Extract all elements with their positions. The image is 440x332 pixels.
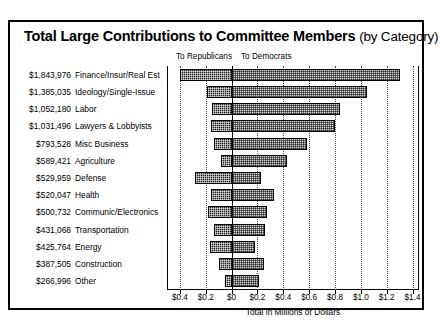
category-row-label: $266,996Other [24, 275, 167, 287]
bar-segment-democrats [232, 69, 400, 81]
contribution-total: $793,528 [36, 138, 71, 150]
chart-title-main: Total Large Contributions to Committee M… [24, 28, 355, 44]
contribution-total: $1,052,180 [29, 103, 71, 115]
value-axis-tick-label: $0.2 [198, 293, 214, 302]
category-row-label: $520,047Health [24, 189, 167, 201]
contribution-total: $266,996 [36, 275, 71, 287]
contribution-total: $520,047 [36, 189, 71, 201]
contribution-total: $529,959 [36, 172, 71, 184]
category-row-label: $500,732Communic/Electronics [24, 206, 167, 218]
bar-segment-republicans [211, 189, 232, 201]
bar-segment-republicans [221, 155, 231, 167]
chart-screenshot: Total Large Contributions to Committee M… [0, 0, 440, 332]
bar-row [167, 206, 419, 218]
category-row-label: $589,421Agriculture [24, 155, 167, 167]
contribution-total: $500,732 [36, 206, 71, 218]
value-axis-tick-label: $1.4 [405, 293, 421, 302]
value-axis-tick-label: $1.2 [379, 293, 395, 302]
bar-segment-republicans [211, 120, 232, 132]
bar-segment-democrats [232, 241, 255, 253]
value-axis-tick-label: $0.8 [327, 293, 343, 302]
bar-segment-republicans [219, 258, 232, 270]
contribution-total: $1,031,496 [29, 120, 71, 132]
bar-segment-republicans [180, 69, 232, 81]
category-row-label: $529,959Defense [24, 172, 167, 184]
category-name: Agriculture [75, 155, 115, 167]
bar-segment-republicans [214, 224, 232, 236]
legend-label-democrats: To Democrats [241, 52, 292, 61]
bar-segment-republicans [207, 86, 232, 98]
bar-row [167, 155, 419, 167]
bar-row [167, 172, 419, 184]
bar-segment-democrats [232, 138, 307, 150]
bar-segment-republicans [210, 241, 232, 253]
bar-segment-republicans [195, 172, 231, 184]
bar-segment-democrats [232, 172, 262, 184]
category-name: Lawyers & Lobbyists [75, 120, 152, 132]
contribution-total: $431,068 [36, 224, 71, 236]
category-name: Other [75, 275, 96, 287]
bar-segment-democrats [232, 189, 275, 201]
bar-row [167, 69, 419, 81]
chart-title: Total Large Contributions to Committee M… [24, 28, 438, 44]
category-row-label: $1,385,035Ideology/Single-Issue [24, 86, 167, 98]
category-row-label: $431,068Transportation [24, 224, 167, 236]
chart-title-suffix: (by Category) [359, 29, 438, 44]
category-name: Construction [75, 258, 122, 270]
bar-row [167, 224, 419, 236]
value-axis-tick-label: $0.6 [301, 293, 317, 302]
category-name: Transportation [75, 224, 129, 236]
category-row-label: $1,052,180Labor [24, 103, 167, 115]
contribution-total: $589,421 [36, 155, 71, 167]
bar-segment-republicans [208, 206, 231, 218]
bar-row [167, 258, 419, 270]
category-row-label: $1,843,976Finance/Insur/Real Est [24, 69, 167, 81]
bar-segment-democrats [232, 258, 264, 270]
bar-segment-democrats [232, 155, 288, 167]
bar-segment-democrats [232, 103, 341, 115]
category-row-label: $1,031,496Lawyers & Lobbyists [24, 120, 167, 132]
category-row-label: $793,528Misc Business [24, 138, 167, 150]
bar-row [167, 138, 419, 150]
bar-series [167, 66, 419, 290]
value-axis-labels: $0.4$0.2$0$0.2$0.4$0.6$0.8$1.0$1.2$1.4 [167, 293, 419, 305]
category-name: Health [75, 189, 99, 201]
category-name: Energy [75, 241, 102, 253]
chart-frame: Total Large Contributions to Committee M… [8, 20, 424, 310]
legend-label-republicans: To Republicans [176, 52, 232, 61]
bar-segment-republicans [214, 138, 232, 150]
contribution-total: $425,764 [36, 241, 71, 253]
contribution-total: $1,843,976 [29, 69, 71, 81]
category-name: Finance/Insur/Real Est [75, 69, 160, 81]
value-axis-tick-label: $0.4 [275, 293, 291, 302]
value-axis-tick-label: $0.4 [172, 293, 188, 302]
plot-area [167, 66, 419, 290]
bar-row [167, 189, 419, 201]
contribution-total: $1,385,035 [29, 86, 71, 98]
bar-segment-democrats [232, 120, 335, 132]
bar-row [167, 86, 419, 98]
value-axis-tick-label: $0.2 [249, 293, 265, 302]
category-name: Ideology/Single-Issue [75, 86, 155, 98]
category-row-label: $425,764Energy [24, 241, 167, 253]
bar-segment-republicans [212, 103, 231, 115]
category-name: Defense [75, 172, 106, 184]
bar-segment-democrats [232, 206, 267, 218]
category-axis-labels: $1,843,976Finance/Insur/Real Est$1,385,0… [24, 66, 167, 290]
value-axis-tick-label: $1.0 [353, 293, 369, 302]
bar-row [167, 241, 419, 253]
bar-row [167, 120, 419, 132]
bar-segment-democrats [232, 86, 368, 98]
bar-segment-democrats [232, 224, 266, 236]
bar-row [167, 275, 419, 287]
value-axis-tick-label: $0 [227, 293, 236, 302]
category-name: Misc Business [75, 138, 129, 150]
axis-title: Total in Millions of Dollars [167, 307, 419, 317]
contribution-total: $387,505 [36, 258, 71, 270]
bar-segment-democrats [232, 275, 259, 287]
category-name: Communic/Electronics [75, 206, 158, 218]
category-row-label: $387,505Construction [24, 258, 167, 270]
bar-row [167, 103, 419, 115]
category-name: Labor [75, 103, 96, 115]
